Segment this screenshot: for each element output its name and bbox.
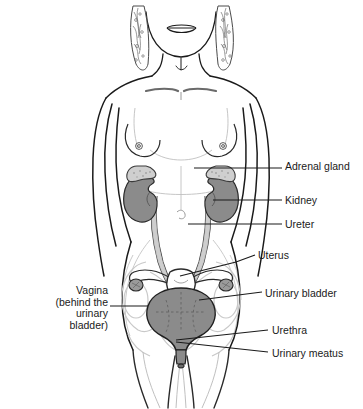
leader-uterus xyxy=(180,255,255,276)
leader-urinary-bladder xyxy=(199,292,262,300)
navel xyxy=(177,210,185,219)
urethra xyxy=(176,350,186,364)
ovary-left xyxy=(129,279,143,291)
label-kidney: Kidney xyxy=(285,195,317,207)
nipples xyxy=(136,143,227,150)
kidney-left xyxy=(124,175,158,222)
urinary-bladder xyxy=(147,288,215,350)
breasts xyxy=(125,124,236,157)
anatomy-figure: Adrenal gland Kidney Ureter Uterus Urina… xyxy=(0,0,363,409)
hair-right xyxy=(216,6,234,70)
kidney-right xyxy=(205,175,239,222)
mouth xyxy=(167,25,196,33)
ovary-right xyxy=(219,279,233,291)
label-urethra: Urethra xyxy=(272,325,307,337)
hair-left xyxy=(131,6,149,70)
head-and-neck xyxy=(146,12,216,76)
label-vagina: Vagina (behind the urinary bladder) xyxy=(10,285,108,331)
label-urinary-bladder: Urinary bladder xyxy=(265,288,337,300)
clavicles xyxy=(146,89,216,91)
label-uterus: Uterus xyxy=(258,250,289,262)
label-adrenal-gland: Adrenal gland xyxy=(285,161,350,173)
urinary-meatus xyxy=(178,364,184,368)
label-urinary-meatus: Urinary meatus xyxy=(272,348,343,360)
label-ureter: Ureter xyxy=(285,219,314,231)
